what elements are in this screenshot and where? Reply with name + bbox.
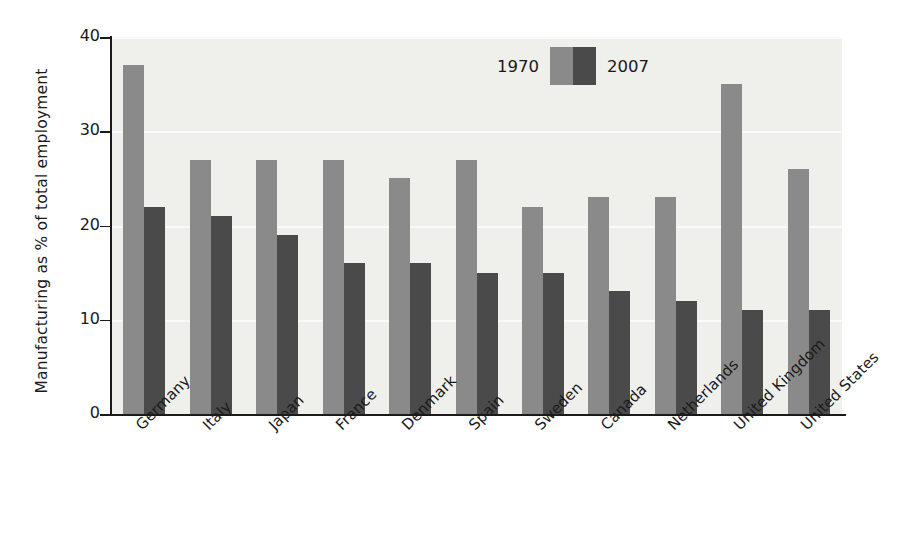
bars-layer — [0, 0, 922, 546]
legend-label-2007: 2007 — [607, 57, 649, 76]
bar-2007 — [277, 235, 298, 414]
bar-1970 — [190, 160, 211, 414]
bar-1970 — [655, 197, 676, 414]
bar-1970 — [256, 160, 277, 414]
bar-2007 — [211, 216, 232, 414]
bar-2007 — [144, 207, 165, 414]
bar-1970 — [323, 160, 344, 414]
legend: 1970 2007 — [497, 47, 649, 85]
bar-1970 — [123, 65, 144, 414]
bar-1970 — [456, 160, 477, 414]
bar-1970 — [588, 197, 609, 414]
legend-swatch-1970 — [550, 47, 573, 85]
bar-1970 — [522, 207, 543, 414]
bar-chart: 010203040 Manufacturing as % of total em… — [0, 0, 922, 546]
bar-1970 — [389, 178, 410, 414]
legend-swatch-2007 — [573, 47, 596, 85]
legend-label-1970: 1970 — [497, 57, 539, 76]
